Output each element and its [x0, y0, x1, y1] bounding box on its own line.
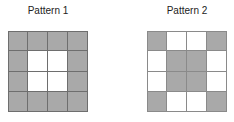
- empty-cell: [28, 72, 48, 92]
- empty-cell: [167, 31, 187, 51]
- filled-cell: [48, 92, 68, 112]
- empty-cell: [48, 51, 68, 71]
- filled-cell: [68, 31, 88, 51]
- filled-cell: [28, 92, 48, 112]
- empty-cell: [48, 72, 68, 92]
- filled-cell: [68, 72, 88, 92]
- empty-cell: [187, 31, 207, 51]
- filled-cell: [68, 92, 88, 112]
- empty-cell: [28, 51, 48, 71]
- filled-cell: [187, 72, 207, 92]
- filled-cell: [8, 51, 28, 71]
- filled-cell: [207, 31, 227, 51]
- empty-cell: [207, 72, 227, 92]
- pattern-2-grid: [147, 31, 227, 112]
- filled-cell: [187, 51, 207, 71]
- empty-cell: [147, 72, 167, 92]
- empty-cell: [187, 92, 207, 112]
- filled-cell: [8, 72, 28, 92]
- filled-cell: [68, 51, 88, 71]
- filled-cell: [8, 31, 28, 51]
- filled-cell: [167, 51, 187, 71]
- filled-cell: [167, 72, 187, 92]
- filled-cell: [28, 31, 48, 51]
- pattern-1-grid: [8, 31, 88, 112]
- pattern-2-title: Pattern 2: [147, 5, 227, 16]
- filled-cell: [207, 92, 227, 112]
- pattern-1-title: Pattern 1: [8, 5, 88, 16]
- filled-cell: [48, 31, 68, 51]
- empty-cell: [207, 51, 227, 71]
- empty-cell: [147, 51, 167, 71]
- filled-cell: [147, 92, 167, 112]
- filled-cell: [147, 31, 167, 51]
- filled-cell: [8, 92, 28, 112]
- empty-cell: [167, 92, 187, 112]
